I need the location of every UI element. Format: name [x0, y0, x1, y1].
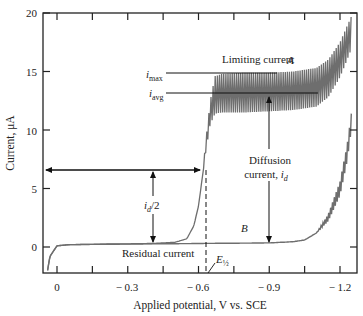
- x-axis-ticks: [57, 13, 340, 273]
- x-tick-label-4: − 1.2: [329, 281, 352, 293]
- i-avg-label: iavg: [149, 87, 164, 102]
- y-axis-ticks: [43, 13, 357, 247]
- y-tick-labels: 0 5 10 15 20: [26, 7, 38, 253]
- y-tick-label-10: 10: [26, 125, 38, 137]
- e-half-pointer: [208, 263, 215, 273]
- y-tick-label-20: 20: [26, 7, 38, 19]
- e-half-label: E½: [215, 253, 229, 268]
- x-tick-labels: 0 − 0.3 − 0.6 − 0.9 − 1.2: [54, 281, 351, 293]
- y-axis-title: Current, μA: [4, 115, 17, 171]
- x-axis-title: Applied potential, V vs. SCE: [133, 299, 267, 312]
- chart-canvas: 0 − 0.3 − 0.6 − 0.9 − 1.2 0 5 10 15 20 A…: [0, 0, 363, 316]
- curve-a-polarogram: [48, 17, 352, 270]
- limiting-current-label: Limiting current: [222, 53, 294, 65]
- curve-b-residual: [48, 114, 352, 271]
- x-tick-label-2: − 0.6: [187, 281, 210, 293]
- curve-b-label: B: [241, 222, 248, 234]
- diffusion-current-label-line1: Diffusion: [249, 154, 291, 166]
- i-max-label: imax: [146, 68, 163, 83]
- x-tick-label-3: − 0.9: [258, 281, 281, 293]
- y-tick-label-5: 5: [32, 183, 38, 195]
- x-tick-label-1: − 0.3: [116, 281, 139, 293]
- residual-current-label: Residual current: [122, 247, 194, 259]
- x-tick-label-0: 0: [54, 281, 60, 293]
- plot-frame: [43, 13, 357, 273]
- polarogram-chart: 0 − 0.3 − 0.6 − 0.9 − 1.2 0 5 10 15 20 A…: [0, 0, 363, 316]
- curve-a-label: A: [286, 54, 294, 66]
- y-tick-label-0: 0: [32, 241, 38, 253]
- y-tick-label-15: 15: [26, 66, 38, 78]
